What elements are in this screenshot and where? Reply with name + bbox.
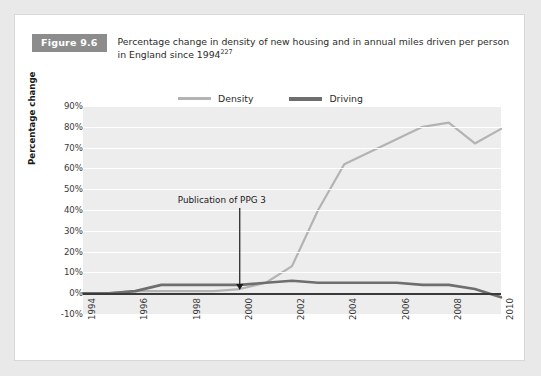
x-tick-label: 2010	[505, 298, 515, 320]
y-tick-label: 40%	[39, 205, 83, 215]
gridline	[83, 210, 501, 211]
y-axis-tick-labels: 90%80%70%60%50%40%30%20%10%0%-10%	[37, 15, 83, 362]
y-tick-label: 0%	[39, 288, 83, 298]
gridline	[83, 272, 501, 273]
x-tick-label: 1994	[87, 298, 97, 320]
gridline	[83, 189, 501, 190]
y-tick-label: 70%	[39, 143, 83, 153]
gridline	[83, 231, 501, 232]
gridline	[83, 168, 501, 169]
y-tick-label: 20%	[39, 247, 83, 257]
x-tick-label: 2000	[244, 298, 254, 320]
gridline	[83, 148, 501, 149]
x-tick-label: 2002	[296, 298, 306, 320]
y-tick-label: 30%	[39, 226, 83, 236]
y-tick-label: 60%	[39, 163, 83, 173]
x-tick-label: 1998	[192, 298, 202, 320]
gridline	[83, 252, 501, 253]
y-axis-title: Percentage change	[27, 72, 37, 165]
y-tick-label: 80%	[39, 122, 83, 132]
figure-card: Figure 9.6 Percentage change in density …	[14, 14, 525, 361]
x-tick-label: 2008	[453, 298, 463, 320]
chart-area: Percentage change 90%80%70%60%50%40%30%2…	[15, 15, 526, 362]
y-tick-label: 90%	[39, 101, 83, 111]
y-tick-label: 10%	[39, 267, 83, 277]
zero-line	[83, 293, 501, 294]
x-axis-tick-labels: 199419961998200020022004200620082010	[83, 316, 501, 376]
x-tick-label: 1996	[139, 298, 149, 320]
gridline	[83, 106, 501, 107]
gridline	[83, 127, 501, 128]
y-tick-label: 50%	[39, 184, 83, 194]
series-line-driving	[83, 281, 501, 298]
x-tick-label: 2004	[348, 298, 358, 320]
annotation-ppg3-label: Publication of PPG 3	[178, 195, 266, 205]
y-tick-label: -10%	[39, 309, 83, 319]
plot-region	[83, 106, 501, 314]
x-tick-label: 2006	[401, 298, 411, 320]
